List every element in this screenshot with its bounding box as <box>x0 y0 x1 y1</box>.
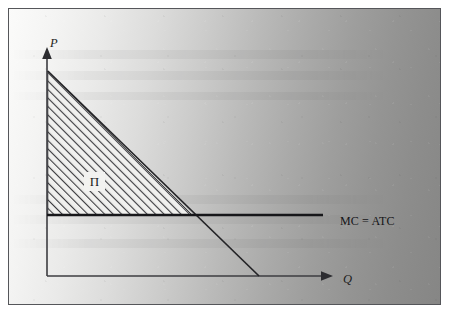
plot-canvas <box>9 9 441 305</box>
figure-frame: P Q MC = ATC Π <box>8 8 441 305</box>
figure-root: P Q MC = ATC Π <box>0 0 450 315</box>
mc-atc-label: MC = ATC <box>340 215 395 227</box>
quantity-axis-label: Q <box>343 273 352 286</box>
price-axis-label: P <box>50 37 58 50</box>
quantity-axis-arrow-icon <box>321 271 333 281</box>
profit-region-label: Π <box>84 172 105 191</box>
